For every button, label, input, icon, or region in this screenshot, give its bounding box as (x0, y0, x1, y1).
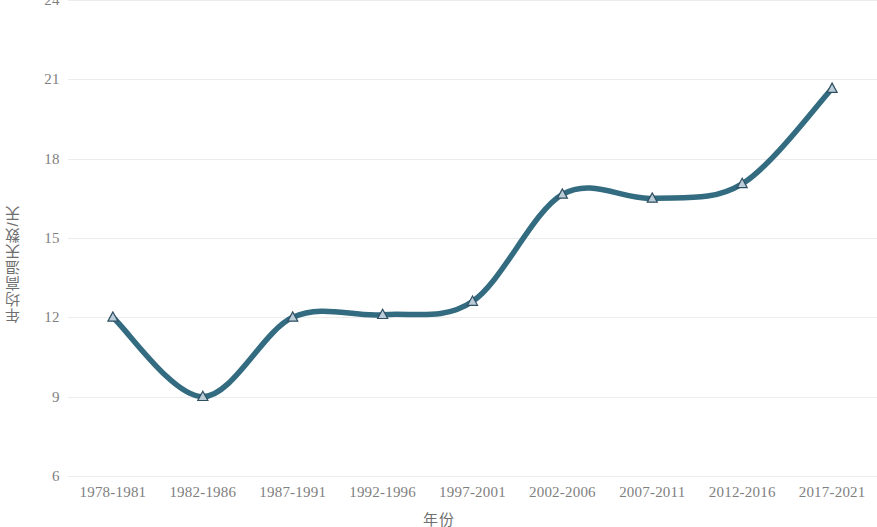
x-axis-tick-label: 2017-2021 (799, 484, 866, 501)
gridline (68, 476, 877, 477)
x-axis-tick-layer: 1978-19811982-19861987-19911992-19961997… (68, 484, 877, 506)
x-axis-tick-label: 2012-2016 (709, 484, 776, 501)
plot-area (68, 0, 877, 476)
y-axis-tick-label: 9 (10, 388, 60, 405)
x-axis-tick-label: 2002-2006 (529, 484, 596, 501)
y-axis-tick-label: 12 (10, 309, 60, 326)
y-axis-tick-label: 15 (10, 230, 60, 247)
y-axis-tick-label: 21 (10, 71, 60, 88)
x-axis-tick-label: 1982-1986 (169, 484, 236, 501)
y-axis-tick-label: 18 (10, 150, 60, 167)
series-layer (68, 0, 877, 476)
x-axis-tick-label: 2007-2011 (619, 484, 685, 501)
data-point-marker (108, 312, 118, 321)
x-axis-title: 年份 (0, 508, 877, 527)
data-point-marker-layer (108, 83, 837, 400)
y-axis-title: 年均高温天数/天 (2, 205, 23, 322)
x-axis-tick-label: 1978-1981 (79, 484, 146, 501)
x-axis-tick-label: 1997-2001 (439, 484, 506, 501)
x-axis-tick-label: 1987-1991 (259, 484, 326, 501)
data-point-marker (827, 83, 837, 92)
line-chart: 年均高温天数/天 691215182124 1978-19811982-1986… (0, 0, 877, 527)
y-axis-tick-label: 24 (10, 0, 60, 9)
x-axis-tick-label: 1992-1996 (349, 484, 416, 501)
y-axis-tick-label: 6 (10, 468, 60, 485)
series-line-path (113, 89, 832, 397)
